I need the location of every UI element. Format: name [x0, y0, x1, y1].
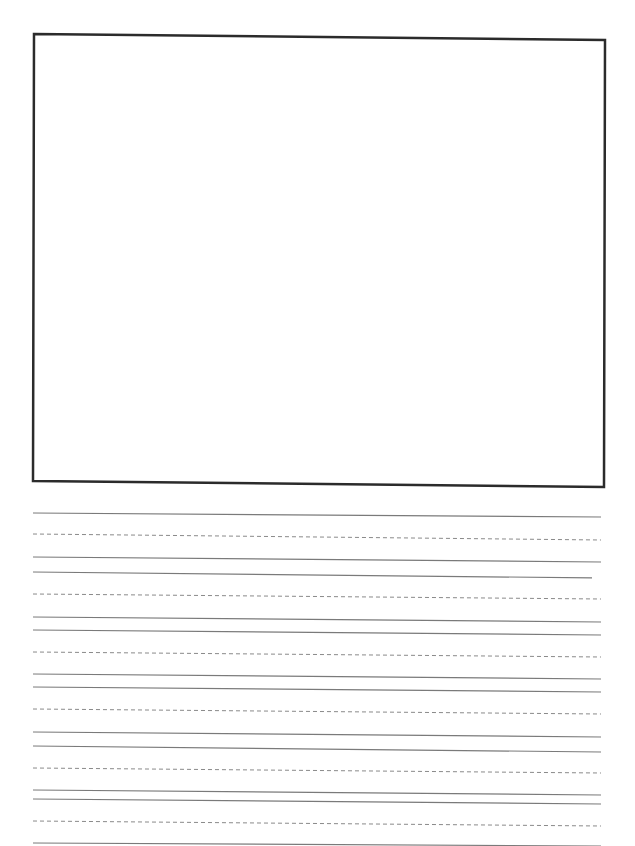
midline-dashed: [33, 821, 601, 826]
writing-line-solid: [33, 572, 592, 578]
practice-sheet: [0, 0, 635, 846]
midline-dashed: [33, 709, 601, 714]
writing-line-solid: [33, 799, 601, 804]
writing-line-solid: [33, 557, 601, 562]
writing-line-solid: [33, 732, 601, 737]
midline-dashed: [33, 652, 601, 657]
writing-line-solid: [33, 687, 601, 692]
drawing-box: [33, 34, 605, 487]
writing-line-solid: [33, 630, 601, 635]
writing-line-solid: [33, 617, 601, 622]
writing-line-solid: [33, 746, 601, 752]
midline-dashed: [33, 594, 601, 599]
writing-line-solid: [33, 674, 601, 679]
writing-line-solid: [33, 513, 601, 517]
writing-lines: [33, 513, 601, 846]
writing-line-solid: [33, 790, 601, 795]
midline-dashed: [33, 768, 601, 773]
midline-dashed: [33, 534, 601, 540]
